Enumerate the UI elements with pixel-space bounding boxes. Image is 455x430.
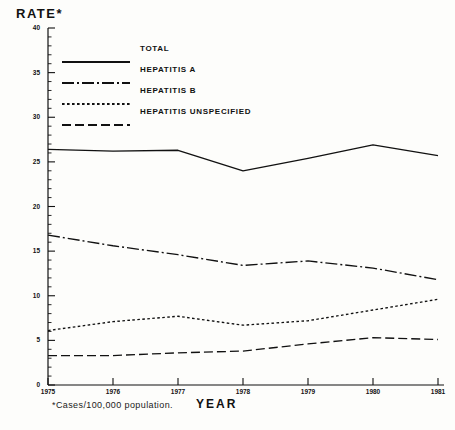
series-line-total bbox=[48, 145, 438, 171]
x-tick-label: 1978 bbox=[226, 388, 260, 395]
series-line-hepatitis-unspecified bbox=[48, 338, 438, 356]
y-tick-label: 15 bbox=[18, 247, 40, 254]
series-line-hepatitis-b bbox=[48, 299, 438, 330]
legend-label: HEPATITIS UNSPECIFIED bbox=[140, 107, 251, 116]
y-tick-label: 25 bbox=[18, 158, 40, 165]
x-tick-label: 1981 bbox=[421, 388, 455, 395]
y-tick-label: 30 bbox=[18, 113, 40, 120]
x-tick-label: 1977 bbox=[161, 388, 195, 395]
legend-swatch-solid-icon bbox=[62, 50, 130, 52]
y-tick-label: 10 bbox=[18, 292, 40, 299]
x-tick-label: 1976 bbox=[96, 388, 130, 395]
y-tick-label: 40 bbox=[18, 24, 40, 31]
x-tick-label: 1979 bbox=[291, 388, 325, 395]
legend-swatch-dashed-icon bbox=[62, 113, 130, 115]
legend-swatch-dotted-icon bbox=[62, 92, 130, 94]
y-tick-label: 0 bbox=[18, 381, 40, 388]
plot-area bbox=[0, 0, 455, 430]
series-line-hepatitis-a bbox=[48, 235, 438, 280]
legend-label: TOTAL bbox=[140, 44, 169, 53]
legend-label: HEPATITIS A bbox=[140, 65, 196, 74]
chart-footnote: *Cases/100,000 population. bbox=[52, 400, 173, 410]
y-tick-label: 20 bbox=[18, 203, 40, 210]
x-axis-ticks bbox=[48, 378, 438, 385]
hepatitis-rate-line-chart: RATE* YEAR 05101520253035401975197619771… bbox=[0, 0, 455, 430]
data-series-group bbox=[48, 145, 438, 356]
legend-swatch-dash-dot-icon bbox=[62, 71, 130, 73]
y-tick-label: 5 bbox=[18, 336, 40, 343]
x-tick-label: 1975 bbox=[31, 388, 65, 395]
legend-label: HEPATITIS B bbox=[140, 86, 196, 95]
x-tick-label: 1980 bbox=[356, 388, 390, 395]
y-tick-label: 35 bbox=[18, 69, 40, 76]
y-axis-ticks bbox=[48, 28, 55, 385]
